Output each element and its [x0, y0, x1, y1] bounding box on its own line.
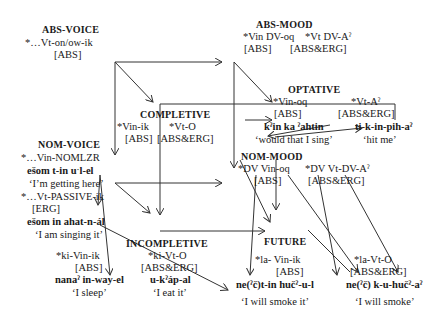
completive-case-tr: [ABS&ERG]: [157, 133, 214, 145]
nom-voice-gloss-intr: ‘I’m getting here’: [29, 178, 104, 190]
abs-mood-case-intr: [ABS]: [244, 43, 271, 55]
future-example-tr: ne(ˀč) k-u-hučˀ-aˀ: [346, 279, 422, 291]
future-form-intr: *la- Vin-ik: [255, 254, 301, 266]
abs-voice-case: [ABS]: [54, 49, 81, 61]
future-form-tr: *la-Vt-O: [354, 254, 392, 266]
optative-case-intr: [ABS]: [274, 108, 301, 120]
incompletive-form: *ki-Vt-O: [148, 250, 187, 262]
abs-mood-heading: ABS-MOOD: [256, 19, 313, 31]
incompletive-gloss: ‘I eat it’: [153, 287, 187, 299]
nom-voice-gloss-tr: ‘I am singing it’: [35, 229, 103, 241]
future-example-intr: ne(ˀč)t-in hučˀ-u-l: [236, 279, 314, 291]
future-case-tr: [ABS&ERG]: [350, 266, 407, 278]
completive-case-intr: [ABS]: [125, 133, 152, 145]
abs-voice-heading: ABS-VOICE: [42, 24, 99, 36]
incompletive-intr-case: [ABS]: [75, 262, 102, 274]
abs-mood-form-intr: *Vin DV-oq: [243, 31, 294, 43]
optative-example-intr: kˀin ka ˀahtin: [264, 121, 324, 133]
optative-heading: OPTATIVE: [288, 84, 340, 96]
incompletive-intr-example: nanaˀ in-way-el: [55, 274, 124, 286]
future-heading: FUTURE: [264, 236, 306, 248]
nom-voice-form-intr: *…Vin-NOMLZR: [21, 152, 100, 164]
abs-voice-form: *…Vt-on/ow-ik: [25, 37, 93, 49]
optative-form-intr: *Vin-oq: [273, 96, 307, 108]
nom-voice-case-tr: [ERG]: [32, 203, 60, 215]
incompletive-example: u-kˀáp-al: [150, 274, 191, 286]
optative-gloss-intr: ‘would that I sing’: [255, 134, 333, 146]
future-gloss-intr: ‘I will smoke it’: [241, 296, 309, 308]
incompletive-intr-gloss: ‘I sleep’: [72, 287, 107, 299]
nom-mood-form-intr: *DV Vin-oq: [238, 163, 290, 175]
nom-mood-form-tr: *DV Vt-DV-Aˀ: [305, 163, 370, 175]
incompletive-case: [ABS&ERG]: [141, 262, 198, 274]
optative-case-tr: [ABS&ERG]: [338, 108, 395, 120]
nom-voice-heading: NOM-VOICE: [38, 139, 100, 151]
nom-mood-case-intr: [ABS]: [254, 175, 281, 187]
future-gloss-tr: ‘I will smoke’: [355, 296, 415, 308]
abs-mood-case-tr: [ABS&ERG]: [290, 43, 347, 55]
optative-example-tr: ti-k-in-pih-aˀ: [355, 121, 412, 133]
optative-form-tr: *Vt-Aˀ: [351, 96, 380, 108]
completive-form-tr: *Vt-O: [169, 121, 196, 133]
incompletive-heading: INCOMPLETIVE: [126, 238, 208, 250]
nom-voice-example-tr: ešom in ahat-n-ál: [27, 216, 105, 228]
incompletive-intr-form: *ki-Vin-ik: [56, 250, 100, 262]
nom-mood-case-tr: [ABS&ERG]: [308, 175, 365, 187]
future-case-intr: [ABS]: [276, 266, 303, 278]
nom-voice-form-tr: *…Vt-PASSIVE-ik: [21, 191, 104, 203]
abs-mood-form-tr: *Vt DV-Aˀ: [305, 31, 351, 43]
completive-form-intr: *Vin-ik: [117, 121, 149, 133]
completive-heading: COMPLETIVE: [140, 109, 210, 121]
nom-voice-example-intr: ešom t-in uˑl-el: [27, 165, 94, 177]
optative-gloss-tr: ‘hit me’: [363, 134, 397, 146]
nom-mood-heading: NOM-MOOD: [241, 151, 303, 163]
